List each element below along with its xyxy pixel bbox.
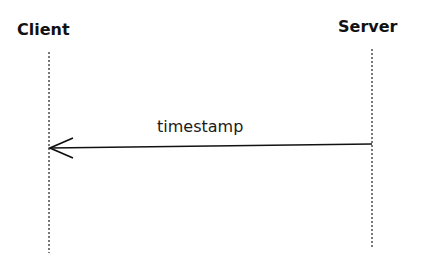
timestamp-message-arrow bbox=[50, 138, 372, 158]
message-label-timestamp: timestamp bbox=[157, 119, 243, 135]
